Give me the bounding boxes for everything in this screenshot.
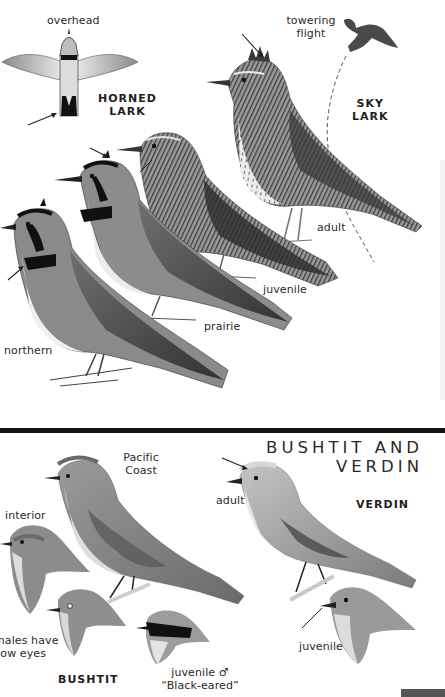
page-thumb-tab: [401, 689, 445, 697]
field-guide-page: overhead HORNED LARK towering flight SKY…: [0, 0, 445, 697]
label-line2: “Black-eared”: [160, 679, 240, 692]
species-name-bushtit: BUSHTIT: [58, 673, 119, 686]
section-divider: [0, 428, 445, 433]
label-juvenile-male-black-eared: juvenile ♂ “Black-eared”: [160, 666, 240, 692]
verdin-adult-illustration: [226, 463, 416, 600]
species-name-line2: LARK: [352, 110, 389, 123]
label-line1: juvenile ♂: [160, 666, 240, 679]
label-juvenile-verdin: juvenile: [299, 640, 343, 653]
label-females-yellow-eyes: males have llow eyes: [0, 634, 59, 660]
section-title-line1: BUSHTIT AND: [266, 438, 423, 457]
label-pacific-coast: Pacific Coast: [118, 451, 164, 477]
label-towering-flight: towering flight: [286, 14, 336, 40]
sky-lark-flight-silhouette: [344, 19, 398, 52]
species-name-line1: SKY: [352, 97, 389, 110]
arrow-icon: [302, 608, 322, 628]
arrow-icon: [28, 114, 55, 125]
arrow-icon: [222, 458, 246, 468]
label-line2: flight: [286, 27, 336, 40]
species-name-line1: HORNED: [98, 92, 157, 105]
label-northern: northern: [4, 344, 52, 357]
bushtit-pacific-coast-illustration: [44, 457, 244, 604]
section-title: BUSHTIT AND VERDIN: [266, 438, 423, 476]
label-line2: Coast: [118, 464, 164, 477]
label-adult-verdin: adult: [216, 494, 245, 507]
species-name-line2: LARK: [98, 105, 157, 118]
label-adult-sky-lark: adult: [317, 221, 346, 234]
species-name-horned-lark: HORNED LARK: [98, 92, 157, 118]
label-prairie: prairie: [204, 320, 240, 333]
species-name-sky-lark: SKY LARK: [352, 97, 389, 123]
label-overhead: overhead: [47, 14, 100, 27]
label-line1: towering: [286, 14, 336, 27]
bushtit-black-eared-head-illustration: [136, 611, 210, 664]
arrow-icon: [8, 268, 22, 280]
section-title-line2: VERDIN: [266, 457, 423, 476]
label-line1: Pacific: [118, 451, 164, 464]
species-name-verdin: VERDIN: [356, 498, 409, 511]
label-line1: males have: [0, 634, 59, 647]
page-edge-shadow: [440, 160, 445, 400]
label-line2: llow eyes: [0, 647, 59, 660]
label-interior: interior: [5, 509, 46, 522]
label-juvenile-horned-lark: juvenile: [263, 283, 307, 296]
